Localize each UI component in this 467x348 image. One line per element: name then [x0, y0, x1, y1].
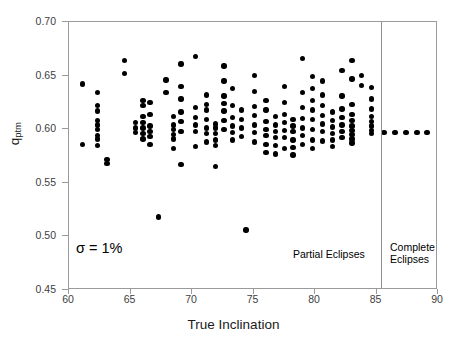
data-point — [221, 101, 226, 106]
y-axis-tick-labels: 0.450.500.550.600.650.70 — [0, 0, 64, 348]
data-point — [252, 104, 257, 109]
data-point — [213, 131, 218, 136]
x-tick-mark — [68, 289, 69, 294]
y-tick-label: 0.70 — [36, 15, 56, 27]
data-point — [147, 134, 152, 139]
data-point — [204, 107, 209, 112]
data-point — [273, 151, 278, 156]
data-point — [263, 133, 268, 138]
data-point — [193, 115, 198, 120]
data-point — [239, 125, 244, 130]
data-point — [193, 144, 198, 149]
data-point — [178, 96, 183, 101]
data-point — [300, 105, 305, 110]
data-point — [140, 136, 145, 141]
data-point — [359, 83, 364, 88]
partial-eclipses-annotation: Partial Eclipses — [293, 248, 365, 260]
data-point — [171, 136, 176, 141]
data-point — [263, 107, 268, 112]
x-axis-title: True Inclination — [0, 317, 467, 332]
data-point — [230, 130, 235, 135]
x-tick-mark — [191, 289, 192, 294]
data-point — [310, 146, 315, 151]
data-point — [320, 113, 325, 118]
data-point — [95, 143, 100, 148]
y-tick-mark — [62, 182, 68, 183]
data-point — [349, 140, 354, 145]
y-tick-mark — [62, 75, 68, 76]
data-point — [330, 137, 335, 142]
data-point — [290, 117, 295, 122]
data-point — [252, 139, 257, 144]
data-point — [310, 127, 315, 132]
data-point — [95, 90, 100, 95]
data-point — [290, 137, 295, 142]
data-point — [282, 120, 287, 125]
data-point — [204, 139, 209, 144]
data-point — [221, 127, 226, 132]
y-tick-label: 0.60 — [36, 122, 56, 134]
data-point — [282, 128, 287, 133]
data-point — [221, 108, 226, 113]
data-point — [330, 124, 335, 129]
x-tick-mark — [437, 289, 438, 294]
data-point — [178, 61, 183, 66]
x-tick-mark — [376, 289, 377, 294]
data-point — [263, 98, 268, 103]
data-point — [403, 130, 408, 135]
data-point — [122, 71, 127, 76]
data-point — [349, 112, 354, 117]
data-point — [330, 118, 335, 123]
data-point — [339, 122, 344, 127]
data-point — [273, 114, 278, 119]
data-point — [230, 115, 235, 120]
data-point — [369, 131, 374, 136]
data-point — [300, 90, 305, 95]
data-point — [221, 118, 226, 123]
data-point — [273, 135, 278, 140]
data-point — [178, 129, 183, 134]
y-tick-label: 0.45 — [36, 283, 56, 295]
data-point — [252, 130, 257, 135]
data-point — [95, 136, 100, 141]
data-point — [359, 73, 364, 78]
data-point — [221, 63, 226, 68]
data-point — [330, 144, 335, 149]
data-point — [80, 81, 85, 86]
data-point — [339, 129, 344, 134]
sigma-annotation: σ = 1% — [76, 240, 122, 256]
data-point — [163, 77, 168, 82]
data-point — [369, 96, 374, 101]
y-axis-title: qptm — [7, 123, 24, 145]
data-point — [147, 112, 152, 117]
data-point — [320, 92, 325, 97]
data-point — [282, 112, 287, 117]
data-point — [239, 134, 244, 139]
y-axis-title-subscript: ptm — [12, 122, 23, 138]
complete-eclipses-line-2: Eclipses — [390, 253, 435, 265]
data-point — [204, 117, 209, 122]
data-point — [273, 122, 278, 127]
data-point — [263, 150, 268, 155]
data-point — [310, 98, 315, 103]
y-axis-title-base: q — [7, 138, 22, 146]
data-point — [414, 130, 419, 135]
data-point — [213, 164, 218, 169]
data-point — [282, 84, 287, 89]
data-point — [239, 117, 244, 122]
data-point — [320, 103, 325, 108]
y-tick-mark — [62, 21, 68, 22]
data-point — [282, 146, 287, 151]
data-point — [193, 129, 198, 134]
data-point — [320, 121, 325, 126]
data-point — [252, 113, 257, 118]
data-point — [263, 127, 268, 132]
data-point — [156, 214, 161, 219]
data-point — [282, 100, 287, 105]
x-tick-label: 75 — [247, 293, 259, 305]
data-point — [424, 130, 429, 135]
data-point — [339, 68, 344, 73]
data-point — [230, 137, 235, 142]
data-point — [310, 117, 315, 122]
data-point — [320, 138, 325, 143]
